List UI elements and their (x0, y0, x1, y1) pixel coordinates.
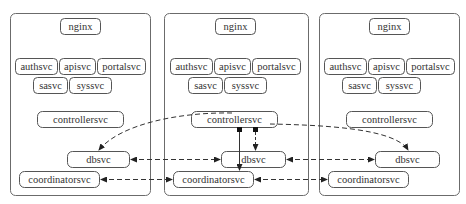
left-coordinatorsvc-node[interactable]: coordinatorsvc (20, 172, 100, 188)
right-authsvc-label: authsvc (329, 61, 361, 72)
cluster-right-border (320, 14, 460, 196)
left-dbsvc-label: dbsvc (86, 154, 111, 165)
architecture-diagram: nginx authsvc apisvc portalsvc sasvc sys… (0, 0, 466, 204)
edge-tail-square-dbsvc (253, 127, 258, 132)
middle-apisvc-node[interactable]: apisvc (215, 59, 251, 75)
left-apisvc-node[interactable]: apisvc (60, 59, 96, 75)
right-dbsvc-node[interactable]: dbsvc (376, 152, 440, 168)
right-apisvc-label: apisvc (373, 61, 400, 72)
middle-authsvc-node[interactable]: authsvc (171, 59, 213, 75)
middle-syssvc-label: syssvc (232, 80, 260, 91)
edge-tail-square-coordinatorsvc (237, 127, 242, 132)
left-sasvc-label: sasvc (39, 80, 62, 91)
left-coordinatorsvc-label: coordinatorsvc (28, 174, 91, 185)
right-controllersvc-label: controllersvc (362, 114, 417, 125)
left-controllersvc-node[interactable]: controllersvc (38, 112, 124, 128)
right-nginx-node[interactable]: nginx (370, 19, 410, 35)
left-authsvc-label: authsvc (20, 61, 52, 72)
left-controllersvc-label: controllersvc (53, 114, 108, 125)
left-nginx-node[interactable]: nginx (61, 19, 101, 35)
cluster-middle: nginx authsvc apisvc portalsvc sasvc sys… (165, 14, 309, 196)
left-apisvc-label: apisvc (64, 61, 91, 72)
middle-sasvc-node[interactable]: sasvc (189, 78, 223, 94)
left-syssvc-label: syssvc (77, 80, 105, 91)
cluster-right: nginx authsvc apisvc portalsvc sasvc sys… (320, 14, 460, 196)
right-sasvc-label: sasvc (348, 80, 371, 91)
left-syssvc-node[interactable]: syssvc (70, 78, 112, 94)
middle-syssvc-node[interactable]: syssvc (225, 78, 267, 94)
right-portalsvc-node[interactable]: portalsvc (407, 59, 455, 75)
middle-apisvc-label: apisvc (219, 61, 246, 72)
middle-portalsvc-label: portalsvc (257, 61, 296, 72)
middle-nginx-label: nginx (224, 21, 249, 32)
right-syssvc-label: syssvc (386, 80, 414, 91)
left-nginx-label: nginx (69, 21, 94, 32)
right-dbsvc-label: dbsvc (395, 154, 420, 165)
cluster-left: nginx authsvc apisvc portalsvc sasvc sys… (11, 14, 151, 196)
right-apisvc-node[interactable]: apisvc (369, 59, 405, 75)
right-controllersvc-node[interactable]: controllersvc (347, 112, 433, 128)
left-sasvc-node[interactable]: sasvc (34, 78, 68, 94)
left-portalsvc-label: portalsvc (102, 61, 141, 72)
left-dbsvc-node[interactable]: dbsvc (68, 152, 130, 168)
middle-coordinatorsvc-label: coordinatorsvc (182, 174, 245, 185)
middle-dbsvc-label: dbsvc (241, 154, 266, 165)
cluster-left-border (11, 14, 151, 196)
middle-portalsvc-node[interactable]: portalsvc (253, 59, 301, 75)
middle-nginx-node[interactable]: nginx (216, 19, 256, 35)
right-nginx-label: nginx (378, 21, 403, 32)
middle-authsvc-label: authsvc (175, 61, 207, 72)
right-sasvc-node[interactable]: sasvc (343, 78, 377, 94)
right-authsvc-node[interactable]: authsvc (325, 59, 367, 75)
right-coordinatorsvc-label: coordinatorsvc (337, 174, 400, 185)
middle-dbsvc-node[interactable]: dbsvc (222, 152, 286, 168)
right-coordinatorsvc-node[interactable]: coordinatorsvc (329, 172, 409, 188)
left-portalsvc-node[interactable]: portalsvc (98, 59, 146, 75)
middle-controllersvc-label: controllersvc (207, 114, 262, 125)
middle-sasvc-label: sasvc (194, 80, 217, 91)
right-portalsvc-label: portalsvc (411, 61, 450, 72)
middle-coordinatorsvc-node[interactable]: coordinatorsvc (174, 172, 254, 188)
left-authsvc-node[interactable]: authsvc (16, 59, 58, 75)
right-syssvc-node[interactable]: syssvc (379, 78, 421, 94)
cluster-middle-border (165, 14, 309, 196)
